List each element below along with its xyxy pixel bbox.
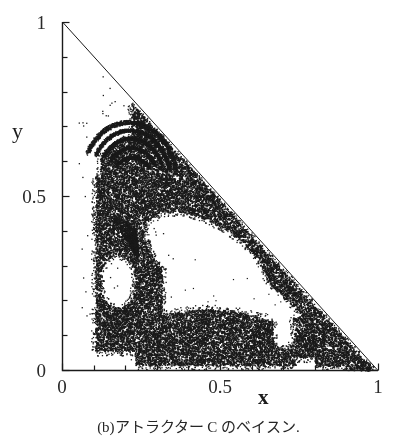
- y-tick-label-0: 0: [16, 361, 46, 380]
- y-axis-title: y: [12, 118, 23, 144]
- x-tick-label-1: 1: [364, 377, 392, 396]
- x-tick-label-0: 0: [48, 377, 76, 396]
- y-tick-label-1: 1: [16, 13, 46, 32]
- y-tick-label-0-5: 0.5: [6, 187, 46, 206]
- x-tick-label-0-5: 0.5: [198, 377, 242, 396]
- basin-scatter-plot: [0, 0, 397, 441]
- basin-figure: 1 0.5 0 0 0.5 1 x y (b)アトラクター C のベイスン.: [0, 0, 397, 441]
- figure-caption: (b)アトラクター C のベイスン.: [0, 415, 397, 436]
- x-axis-title: x: [258, 385, 269, 410]
